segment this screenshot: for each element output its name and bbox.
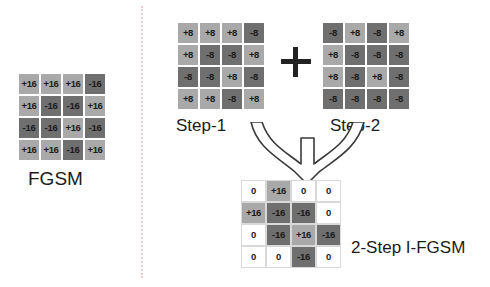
grid-cell: -16 [40, 117, 62, 139]
grid-cell: -16 [40, 95, 62, 117]
grid-cell: +8 [199, 22, 221, 44]
section-divider [141, 6, 143, 278]
grid-cell: +8 [243, 88, 265, 110]
grid-cell: -8 [366, 22, 388, 44]
grid-cell: -8 [388, 44, 410, 66]
grid-cell: -16 [266, 202, 291, 224]
grid-cell: +8 [322, 44, 344, 66]
grid-cell: +8 [221, 66, 243, 88]
grid-cell: -8 [344, 88, 366, 110]
grid-cell: +8 [199, 88, 221, 110]
grid-cell: -8 [388, 88, 410, 110]
grid-cell: -8 [366, 88, 388, 110]
diagram-canvas: +16+16+16-16+16-16-16+16-16-16+16-16+16+… [0, 0, 490, 287]
grid-cell: -8 [366, 44, 388, 66]
grid-cell: +8 [177, 22, 199, 44]
grid-cell: +8 [177, 88, 199, 110]
grid-cell: -16 [62, 139, 84, 161]
grid-cell: +16 [266, 180, 291, 202]
step2-grid: -8+8-8+8+8-8-8-8+8-8+8-8-8-8-8-8 [322, 22, 410, 110]
fgsm-label: FGSM [28, 168, 83, 190]
grid-cell: -8 [243, 66, 265, 88]
grid-cell: -8 [344, 44, 366, 66]
grid-cell: +16 [18, 139, 40, 161]
grid-cell: -16 [266, 224, 291, 246]
grid-cell: -16 [84, 73, 106, 95]
grid-cell: 0 [316, 180, 341, 202]
grid-cell: +16 [84, 95, 106, 117]
grid-cell: -8 [221, 88, 243, 110]
grid-cell: 0 [316, 246, 341, 268]
grid-cell: -8 [344, 66, 366, 88]
grid-cell: 0 [241, 246, 266, 268]
grid-cell: -16 [84, 117, 106, 139]
grid-cell: -16 [62, 95, 84, 117]
merge-arrow-icon [245, 122, 370, 184]
grid-cell: -16 [316, 224, 341, 246]
grid-cell: +8 [388, 22, 410, 44]
grid-cell: -8 [199, 66, 221, 88]
grid-cell: +8 [243, 44, 265, 66]
grid-cell: +16 [84, 139, 106, 161]
grid-cell: -16 [291, 202, 316, 224]
grid-cell: +16 [18, 73, 40, 95]
grid-cell: +16 [62, 117, 84, 139]
grid-cell: 0 [241, 180, 266, 202]
grid-cell: +16 [291, 224, 316, 246]
step1-label: Step-1 [176, 116, 226, 136]
grid-cell: 0 [291, 180, 316, 202]
grid-cell: -8 [243, 22, 265, 44]
grid-cell: -16 [291, 246, 316, 268]
grid-cell: +8 [366, 66, 388, 88]
grid-cell: +16 [18, 95, 40, 117]
grid-cell: +16 [40, 139, 62, 161]
fgsm-grid: +16+16+16-16+16-16-16+16-16-16+16-16+16+… [18, 73, 106, 161]
grid-cell: -8 [221, 44, 243, 66]
grid-cell: +16 [40, 73, 62, 95]
grid-cell: -8 [322, 88, 344, 110]
grid-cell: +8 [221, 22, 243, 44]
grid-cell: 0 [266, 246, 291, 268]
grid-cell: -16 [18, 117, 40, 139]
grid-cell: -8 [199, 44, 221, 66]
grid-cell: 0 [241, 224, 266, 246]
result-grid: 0+1600+16-16-1600-16+16-1600-160 [241, 180, 341, 268]
grid-cell: +16 [241, 202, 266, 224]
grid-cell: -8 [177, 66, 199, 88]
grid-cell: +8 [344, 22, 366, 44]
result-label: 2-Step I-FGSM [351, 238, 465, 258]
grid-cell: -8 [322, 22, 344, 44]
plus-operator-icon [281, 47, 311, 77]
step1-grid: +8+8+8-8+8-8-8+8-8-8+8-8+8+8-8+8 [177, 22, 265, 110]
grid-cell: -8 [388, 66, 410, 88]
grid-cell: 0 [316, 202, 341, 224]
grid-cell: +16 [62, 73, 84, 95]
grid-cell: +8 [322, 66, 344, 88]
grid-cell: +8 [177, 44, 199, 66]
plus-vertical-bar [293, 47, 298, 77]
